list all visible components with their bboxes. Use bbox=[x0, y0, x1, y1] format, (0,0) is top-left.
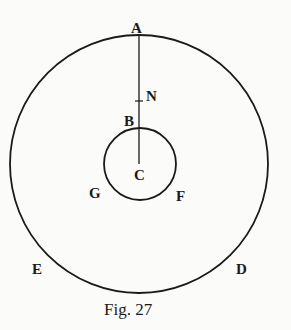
label-G: G bbox=[89, 185, 101, 201]
label-B: B bbox=[124, 113, 134, 129]
label-N: N bbox=[146, 88, 157, 104]
figure-27-diagram: A N B C G F E D Fig. 27 bbox=[0, 0, 291, 330]
figure-caption: Fig. 27 bbox=[104, 300, 153, 319]
label-C: C bbox=[134, 167, 145, 183]
label-A: A bbox=[131, 20, 142, 36]
label-F: F bbox=[176, 188, 185, 204]
label-D: D bbox=[236, 261, 247, 277]
label-E: E bbox=[32, 261, 42, 277]
inner-circle bbox=[104, 128, 176, 200]
